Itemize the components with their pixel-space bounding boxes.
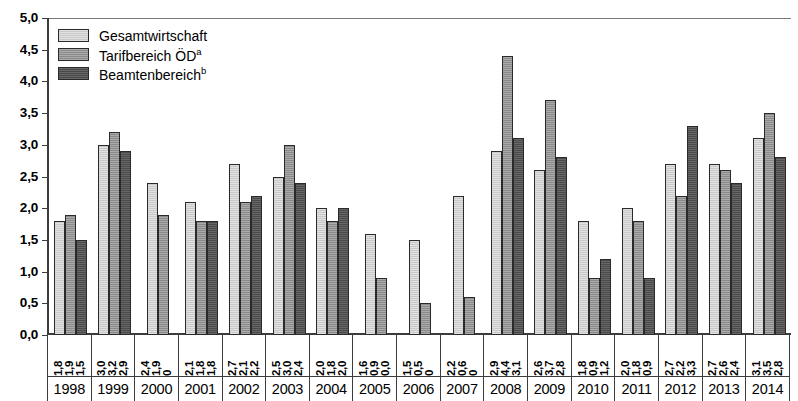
legend-swatch-2 (58, 67, 89, 80)
bar-2008-series1 (502, 56, 513, 335)
table-column-2013: 2,72,62,42013 (703, 335, 747, 401)
bar-group-2006 (398, 18, 442, 335)
bar-group-2008 (485, 18, 529, 335)
bar-1999-series2 (120, 151, 131, 335)
table-column-2012: 2,72,23,32012 (659, 335, 703, 401)
table-year-label: 2004 (310, 376, 353, 401)
bar-1998-series1 (65, 215, 76, 335)
table-cell-2000-series2: 0 (162, 370, 173, 376)
table-column-2010: 1,80,91,22010 (572, 335, 616, 401)
legend-item-0[interactable]: Gesamtwirtschaft (58, 27, 207, 44)
y-axis-tick (42, 145, 48, 146)
table-cell-2013-series2: 2,4 (729, 361, 740, 376)
table-year-label: 2006 (397, 376, 440, 401)
y-axis-tick (42, 81, 48, 82)
table-cell-1998-series2: 1,5 (75, 361, 86, 376)
legend-item-1[interactable]: Tarifbereich ÖDa (58, 46, 207, 63)
legend-swatch-0 (58, 29, 89, 42)
table-year-label: 2009 (528, 376, 571, 401)
bar-group-2011 (616, 18, 660, 335)
table-cell-2007-series2: 0 (468, 370, 479, 376)
y-axis-tick (42, 208, 48, 209)
chart-legend: GesamtwirtschaftTarifbereich ÖDaBeamtenb… (58, 27, 207, 82)
table-values-2010: 1,80,91,2 (572, 335, 615, 376)
table-cell-2010-series1: 0,9 (588, 361, 599, 376)
bar-2014-series2 (775, 157, 786, 335)
table-values-2000: 2,41,90 (135, 335, 178, 376)
table-year-label: 1998 (48, 376, 91, 401)
bar-2010-series2 (600, 259, 611, 335)
table-cell-1999-series2: 2,9 (118, 361, 129, 376)
bar-2002-series2 (251, 196, 262, 335)
table-year-label: 2010 (572, 376, 615, 401)
bar-group-2010 (573, 18, 617, 335)
bar-2006-series1 (420, 303, 431, 335)
bar-group-2002 (224, 18, 268, 335)
data-table: 1,81,91,519983,03,22,919992,41,9020002,1… (47, 335, 793, 401)
bar-2000-series0 (147, 183, 158, 335)
legend-label-2: Beamtenbereichb (99, 66, 206, 82)
bar-2012-series2 (687, 126, 698, 335)
table-values-2011: 2,01,80,9 (615, 335, 658, 376)
bar-2003-series0 (273, 177, 284, 336)
table-cell-2012-series2: 3,3 (686, 361, 697, 376)
table-cell-2002-series2: 2,2 (249, 361, 260, 376)
table-cell-2007-series1: 0,6 (457, 361, 468, 376)
legend-swatch-1 (58, 48, 89, 61)
y-axis-tick (42, 113, 48, 114)
table-values-2003: 2,53,02,4 (266, 335, 309, 376)
table-year-label: 2013 (703, 376, 746, 401)
y-axis-tick (42, 303, 48, 304)
table-cell-2009-series2: 2,8 (555, 361, 566, 376)
y-axis-tick-label: 5,0 (20, 11, 38, 25)
table-cell-2004-series2: 2,0 (337, 361, 348, 376)
bar-2001-series2 (207, 221, 218, 335)
bar-2012-series0 (665, 164, 676, 335)
legend-label-0: Gesamtwirtschaft (99, 29, 207, 43)
legend-label-1: Tarifbereich ÖDa (99, 47, 202, 63)
bar-2000-series1 (158, 215, 169, 335)
table-cell-2010-series2: 1,2 (599, 361, 610, 376)
bar-2009-series2 (556, 157, 567, 335)
y-axis-tick-label: 3,5 (20, 106, 38, 120)
table-cell-2007-series0: 2,2 (446, 361, 457, 376)
table-values-1998: 1,81,91,5 (48, 335, 91, 376)
bar-2012-series1 (676, 196, 687, 335)
table-column-2007: 2,20,602007 (441, 335, 485, 401)
bar-group-2009 (529, 18, 573, 335)
bar-2013-series2 (731, 183, 742, 335)
y-axis-tick-label: 0,5 (20, 297, 38, 311)
y-axis-tick-label: 4,5 (20, 43, 38, 57)
y-axis-tick (42, 240, 48, 241)
table-column-1999: 3,03,22,91999 (92, 335, 136, 401)
table-cell-2010-series0: 1,8 (577, 361, 588, 376)
table-column-2009: 2,63,72,82009 (528, 335, 572, 401)
table-cell-2011-series2: 0,9 (642, 361, 653, 376)
table-year-label: 2014 (746, 376, 789, 401)
table-year-label: 2003 (266, 376, 309, 401)
table-values-2006: 1,50,50 (397, 335, 440, 376)
table-column-2003: 2,53,02,42003 (266, 335, 310, 401)
bar-2007-series1 (464, 297, 475, 335)
bar-2004-series2 (338, 208, 349, 335)
bar-2008-series0 (491, 151, 502, 335)
table-values-2013: 2,72,62,4 (703, 335, 746, 376)
table-cell-2005-series2: 0,0 (380, 361, 391, 376)
bar-2014-series0 (753, 138, 764, 335)
legend-item-2[interactable]: Beamtenbereichb (58, 65, 207, 82)
table-column-2002: 2,72,12,22002 (223, 335, 267, 401)
table-values-2009: 2,63,72,8 (528, 335, 571, 376)
y-axis-tick (42, 177, 48, 178)
table-values-2002: 2,72,12,2 (223, 335, 266, 376)
bar-2003-series2 (295, 183, 306, 335)
y-axis-tick-label: 3,0 (20, 138, 38, 152)
table-year-label: 2011 (615, 376, 658, 401)
chart-figure: 5,04,54,03,53,02,52,01,51,00,50,0 Gesamt… (0, 0, 798, 401)
bar-2001-series1 (196, 221, 207, 335)
table-values-2007: 2,20,60 (441, 335, 484, 376)
table-year-label: 2008 (484, 376, 527, 401)
y-axis-tick (42, 50, 48, 51)
table-year-label: 2012 (659, 376, 702, 401)
bar-2003-series1 (284, 145, 295, 335)
legend-footnote-2: b (201, 65, 206, 76)
